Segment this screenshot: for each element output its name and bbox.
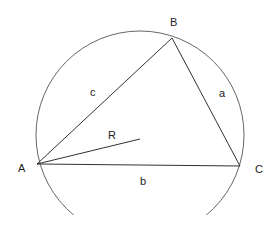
side-a-line bbox=[172, 38, 240, 166]
side-b-line bbox=[37, 164, 240, 166]
circumcircle-diagram: A B C a b c R bbox=[0, 0, 279, 228]
side-label-a: a bbox=[219, 87, 226, 99]
radius-label: R bbox=[108, 129, 116, 141]
radius-line bbox=[37, 139, 140, 164]
vertex-label-a: A bbox=[18, 162, 26, 174]
side-label-b: b bbox=[140, 175, 146, 187]
side-c-line bbox=[37, 38, 172, 164]
vertex-label-c: C bbox=[255, 163, 263, 175]
side-label-c: c bbox=[90, 86, 96, 98]
circumcircle bbox=[36, 31, 244, 228]
vertex-label-b: B bbox=[170, 16, 177, 28]
